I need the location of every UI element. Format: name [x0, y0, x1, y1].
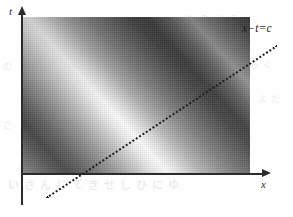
density-plot-panel — [23, 17, 250, 174]
up-arrowhead-icon — [18, 6, 26, 15]
scan-bleed-text: さ — [3, 118, 12, 131]
right-arrowhead-icon — [262, 169, 271, 177]
t-axis-label: t — [9, 6, 12, 17]
t-axis-line — [21, 14, 23, 205]
scan-bleed-text: よた — [258, 92, 284, 105]
scan-bleed-text: いさんじてきせしひにゆ — [8, 176, 184, 192]
wave-characteristics-figure: いさんじてきせしひにゆ ちのぶこ らく よた の さ t x x−t=c — [0, 0, 293, 217]
x-axis-label: x — [261, 179, 266, 190]
scan-bleed-text: らく — [250, 58, 276, 71]
x-axis-line — [22, 173, 266, 175]
scan-bleed-text: の — [3, 60, 12, 73]
scan-grain-overlay — [23, 17, 250, 174]
characteristic-line-label: x−t=c — [242, 22, 272, 34]
